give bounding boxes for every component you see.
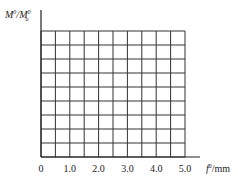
y-label-sup2: 0 — [27, 9, 30, 15]
x-tick-label: 4.0 — [150, 163, 163, 174]
x-tick-label: 2.0 — [92, 163, 105, 174]
y-axis-label: M0/M0u — [5, 9, 28, 22]
y-label-sub: u — [25, 16, 28, 22]
x-tick-label: 0 — [39, 163, 44, 174]
chart-grid — [0, 0, 238, 189]
x-tick-label: 1.0 — [64, 163, 77, 174]
x-tick-label: 3.0 — [121, 163, 134, 174]
x-tick-label: 5.0 — [179, 163, 192, 174]
x-label-unit: /mm — [212, 163, 230, 174]
grid-lines — [41, 31, 185, 157]
x-axis-label: f0/mm — [206, 163, 230, 174]
